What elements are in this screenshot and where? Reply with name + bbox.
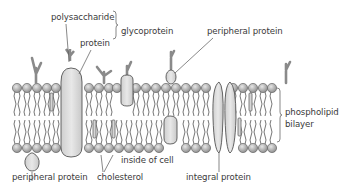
label-peripheral-protein-top: peripheral protein [207,27,283,36]
label-polysaccharide: polysaccharide [51,13,114,22]
label-inside-of-cell: inside of cell [121,156,174,165]
label-bilayer: bilayer [285,120,314,129]
phospholipid-heads-lower [12,143,276,152]
label-phospholipid: phospholipid [285,108,339,117]
label-glycoprotein: glycoprotein [121,27,173,36]
integral-protein [213,82,236,153]
label-peripheral-protein-bottom: peripheral protein [12,173,88,182]
label-protein: protein [80,39,110,48]
surface-protein-upper [121,75,133,106]
peripheral-protein-bottom [25,153,39,171]
label-cholesterol: cholesterol [97,173,143,182]
phospholipid-heads-upper [12,83,276,92]
peripheral-protein-top [166,70,176,84]
label-integral-protein: integral protein [186,173,251,182]
embedded-protein-lower [164,116,177,144]
glycoprotein [61,49,82,157]
